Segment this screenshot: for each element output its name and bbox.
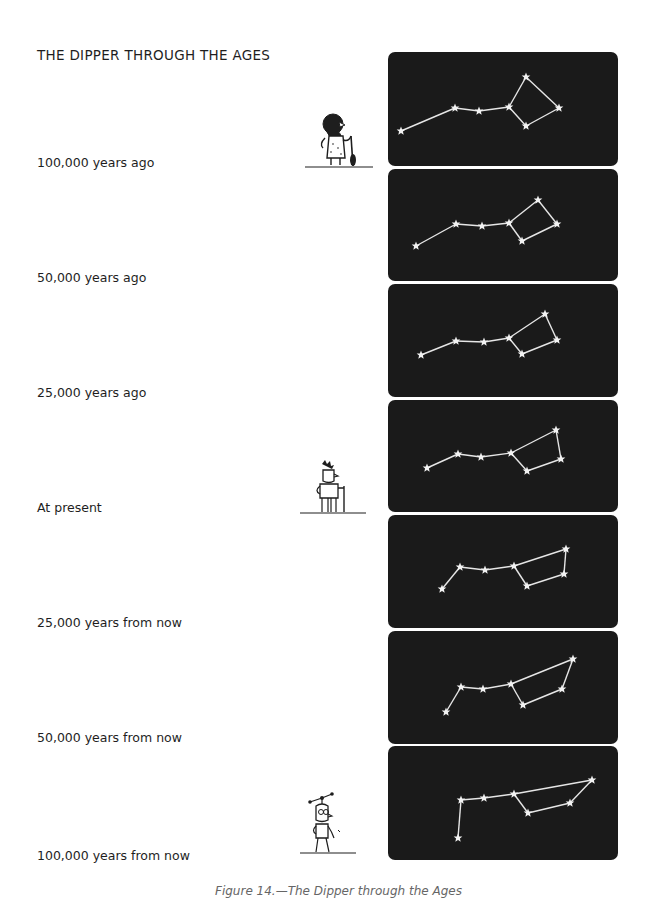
constellation-line: [514, 549, 566, 566]
star-icon: [456, 562, 465, 570]
star-icon: [412, 241, 421, 249]
constellation-line: [481, 453, 511, 457]
big-dipper-constellation: [423, 425, 566, 474]
constellation-line: [538, 200, 557, 224]
constellation-line: [483, 684, 511, 689]
star-icon: [479, 684, 488, 692]
constellation-line: [458, 454, 481, 457]
constellation-line: [484, 338, 509, 342]
star-icon: [442, 707, 451, 715]
constellation-line: [485, 566, 514, 570]
star-icon: [423, 463, 432, 471]
star-icon: [510, 561, 519, 569]
constellation-line: [456, 224, 482, 226]
constellation-line: [442, 567, 460, 589]
constellation-line: [527, 574, 564, 586]
constellation-line: [545, 314, 557, 340]
constellation-line: [460, 567, 485, 570]
star-icon: [480, 793, 489, 801]
star-icon: [507, 679, 516, 687]
constellation-line: [556, 430, 561, 459]
constellation-line: [401, 108, 455, 131]
constellation-line: [509, 107, 526, 126]
constellation-line: [522, 224, 557, 241]
star-icon: [478, 221, 487, 229]
constellation-line: [509, 77, 526, 107]
constellation-line: [511, 684, 523, 705]
star-icon: [557, 454, 566, 462]
star-icon: [505, 333, 514, 341]
big-dipper-constellation: [417, 309, 562, 358]
future-man-illustration: [298, 792, 364, 858]
star-icon: [451, 103, 460, 111]
star-icon: [457, 682, 466, 690]
constellation-line: [427, 454, 458, 468]
constellation-line: [455, 108, 479, 111]
star-icon: [475, 106, 484, 114]
present-day-man-illustration: [300, 458, 368, 518]
constellation-line: [456, 341, 484, 342]
figure-caption: Figure 14.—The Dipper through the Ages: [215, 884, 462, 898]
star-icon: [480, 337, 489, 345]
star-icon: [397, 126, 406, 134]
constellation-line: [527, 459, 561, 471]
constellation-line: [458, 800, 461, 838]
constellation-line: [479, 107, 509, 111]
big-dipper-constellation: [442, 654, 578, 715]
constellation-line: [416, 224, 456, 246]
constellation-line: [526, 108, 559, 126]
star-icon: [560, 569, 569, 577]
star-icon: [553, 335, 562, 343]
big-dipper-constellation: [397, 72, 564, 134]
star-icon: [454, 833, 463, 841]
star-icon: [477, 452, 486, 460]
constellation-line: [511, 430, 556, 453]
constellation-line: [526, 77, 559, 108]
star-icon: [481, 565, 490, 573]
star-icon: [505, 218, 514, 226]
big-dipper-constellation: [438, 544, 571, 592]
constellation-line: [482, 223, 509, 226]
constellation-line: [523, 689, 562, 705]
star-icon: [417, 350, 426, 358]
star-icon: [452, 336, 461, 344]
constellation-line: [522, 340, 557, 354]
constellation-line: [446, 687, 461, 712]
constellation-line: [511, 659, 573, 684]
star-icon: [510, 789, 519, 797]
star-icon: [519, 700, 528, 708]
star-icon: [523, 581, 532, 589]
star-icon: [454, 449, 463, 457]
star-icon: [558, 684, 567, 692]
constellation-line: [484, 794, 514, 798]
big-dipper-constellation: [454, 775, 597, 841]
constellation-line: [528, 803, 570, 813]
constellation-line: [421, 341, 456, 355]
big-dipper-constellation: [412, 195, 562, 249]
star-icon: [569, 654, 578, 662]
constellation-line: [509, 314, 545, 338]
constellation-line: [509, 200, 538, 223]
caveman-illustration: [303, 108, 375, 170]
